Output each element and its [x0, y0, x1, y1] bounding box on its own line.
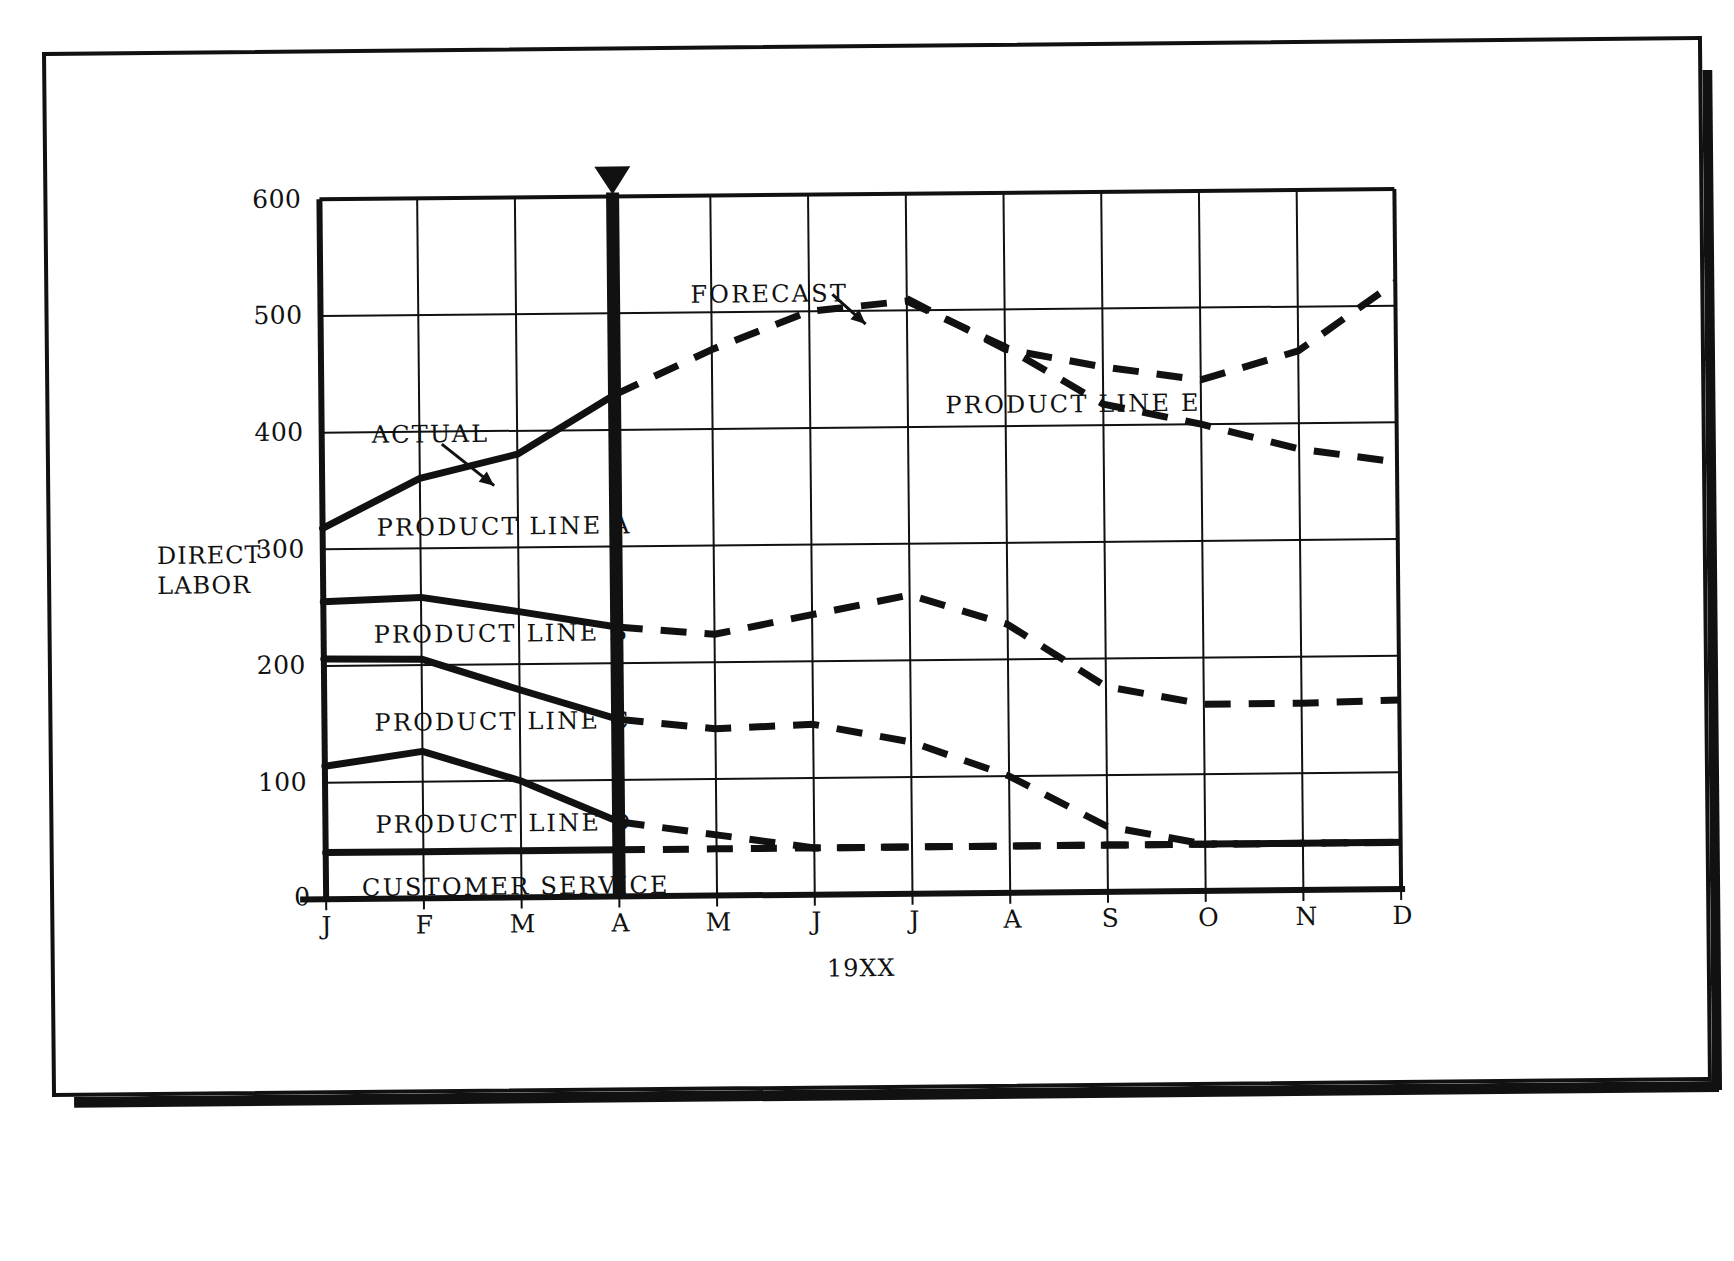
x-tick-apr: A — [600, 908, 640, 937]
y-tick-100: 100 — [237, 767, 307, 797]
x-tick-mar: M — [502, 909, 542, 938]
y-tick-500: 500 — [232, 301, 302, 331]
series-label-product-line-a: PRODUCT LINE A — [376, 511, 631, 541]
series-label-customer-service: CUSTOMER SERVICE — [362, 871, 670, 902]
y-tick-200: 200 — [236, 650, 306, 680]
y-tick-400: 400 — [234, 418, 304, 448]
y-tick-0: 0 — [294, 882, 310, 911]
series-label-product-line-d: PRODUCT LINE D — [375, 808, 632, 838]
x-tick-jan: J — [306, 911, 346, 940]
y-axis-title-line2: LABOR — [157, 570, 262, 601]
x-tick-nov: N — [1286, 902, 1326, 931]
slide-sheet: DIRECT LABOR 600 500 400 300 200 100 0 J… — [42, 36, 1712, 1097]
series-label-product-line-b: PRODUCT LINE B — [373, 618, 629, 648]
x-axis-title: 19XX — [827, 954, 896, 983]
y-tick-600: 600 — [231, 185, 301, 215]
chart-plot-area: 600 500 400 300 200 100 0 J F M A M J J … — [319, 189, 1401, 899]
x-tick-jun: J — [796, 906, 836, 935]
x-tick-aug: A — [992, 905, 1032, 934]
chart-svg — [319, 189, 1401, 899]
x-tick-jul: J — [894, 905, 934, 934]
x-tick-may: M — [698, 907, 738, 936]
series-label-product-line-e: PRODUCT LINE E — [945, 389, 1201, 419]
x-tick-feb: F — [404, 910, 444, 939]
x-tick-oct: O — [1188, 903, 1228, 932]
x-tick-sep: S — [1090, 904, 1130, 933]
x-tick-dec: D — [1382, 901, 1422, 930]
annotation-actual: ACTUAL — [372, 420, 490, 449]
series-label-product-line-c: PRODUCT LINE C — [374, 706, 630, 736]
y-tick-300: 300 — [235, 535, 305, 565]
annotation-forecast: FORECAST — [690, 279, 848, 309]
